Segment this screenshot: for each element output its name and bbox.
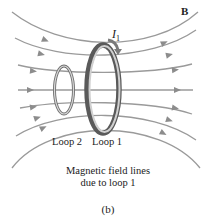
arrow-icon: [174, 87, 181, 93]
arrow-icon: [27, 87, 34, 93]
field-line: [18, 64, 192, 72]
arrow-icon: [37, 50, 45, 58]
loop-1-label: Loop 1: [92, 136, 122, 147]
arrow-icon: [165, 116, 174, 124]
field-line: [20, 103, 192, 114]
arrow-icon: [159, 129, 168, 138]
arrow-icon: [41, 36, 50, 44]
loop-2-label: Loop 2: [52, 136, 82, 147]
caption-line-2: due to loop 1: [80, 177, 135, 188]
loop-1: [87, 45, 120, 133]
arrow-icon: [30, 103, 38, 110]
panel-label: (b): [102, 203, 115, 216]
field-line: [12, 12, 198, 42]
field-label: B: [181, 5, 189, 17]
arrow-icon: [165, 51, 173, 59]
arrow-icon: [33, 114, 42, 122]
current-label: I1: [111, 27, 120, 43]
caption-line-1: Magnetic field lines: [66, 165, 150, 176]
magnetic-field-diagram: I1 B Loop 2 Loop 1 Magnetic field lines …: [0, 0, 210, 219]
